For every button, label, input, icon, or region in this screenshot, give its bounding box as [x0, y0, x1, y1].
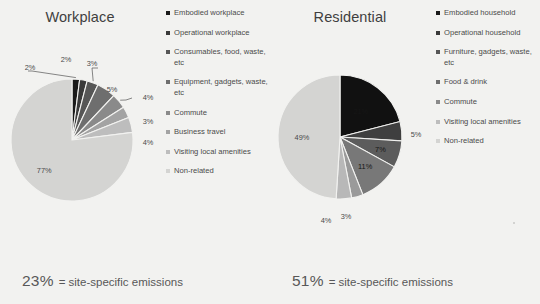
- legend-swatch-icon: [166, 130, 170, 134]
- legend-label: Operational household: [444, 28, 520, 39]
- pie-slice-label: 5%: [411, 130, 422, 139]
- chart-panel-workplace: Workplace 2%2%3%5%4%3%4%77% Embodied wor…: [0, 0, 270, 304]
- legend-swatch-icon: [166, 169, 170, 173]
- pie-slice-label: 77%: [37, 166, 52, 175]
- chart-panel-residential: Residential 21%5%7%11%3%4%49% Embodied h…: [270, 0, 540, 304]
- footnote-residential: 51% = site-specific emissions: [292, 272, 453, 290]
- label-leader-line: [28, 71, 76, 78]
- legend-swatch-icon: [436, 120, 440, 124]
- legend-label: Commute: [444, 97, 477, 108]
- label-leader-line: [92, 68, 98, 81]
- pie-svg: 21%5%7%11%3%4%49%: [276, 62, 436, 212]
- legend-label: Furniture, gadgets, waste, etc: [444, 47, 538, 68]
- legend-swatch-icon: [436, 11, 440, 15]
- legend-swatch-icon: [166, 50, 170, 54]
- legend-swatch-icon: [436, 80, 440, 84]
- legend-item: Furniture, gadgets, waste, etc: [436, 47, 540, 68]
- legend-swatch-icon: [166, 111, 170, 115]
- legend-label: Operational workplace: [174, 28, 250, 39]
- pie-slice-label: 2%: [61, 55, 72, 64]
- pie-slice-label: 3%: [143, 117, 154, 126]
- dust-speck: [513, 222, 515, 224]
- legend-label: Visiting local amenities: [444, 117, 521, 128]
- legend-item: Operational workplace: [166, 28, 270, 39]
- legend-residential: Embodied householdOperational householdF…: [436, 8, 540, 156]
- footnote-text-residential: = site-specific emissions: [329, 276, 453, 288]
- legend-label: Visiting local amenities: [174, 147, 251, 158]
- legend-item: Food & drink: [436, 77, 540, 88]
- legend-item: Commute: [166, 108, 270, 119]
- legend-swatch-icon: [166, 31, 170, 35]
- legend-label: Non-related: [174, 166, 214, 177]
- pie-slice-label: 49%: [295, 133, 310, 142]
- legend-item: Business travel: [166, 127, 270, 138]
- legend-label: Equipment, gadgets, waste, etc: [174, 77, 268, 98]
- legend-swatch-icon: [436, 139, 440, 143]
- pie-chart-workplace: 2%2%3%5%4%3%4%77%: [6, 62, 166, 212]
- chart-title-residential: Residential: [270, 9, 430, 25]
- legend-label: Embodied household: [444, 8, 515, 19]
- legend-workplace: Embodied workplaceOperational workplaceC…: [166, 8, 270, 186]
- pie-slice-label: 3%: [87, 59, 98, 68]
- label-leader-line: [120, 98, 132, 100]
- pie-slice-label: 3%: [341, 212, 352, 221]
- legend-swatch-icon: [436, 31, 440, 35]
- legend-item: Commute: [436, 97, 540, 108]
- legend-label: Business travel: [174, 127, 226, 138]
- chart-title-workplace: Workplace: [0, 9, 160, 25]
- legend-label: Embodied workplace: [174, 8, 245, 19]
- pie-slice-label: 2%: [25, 63, 36, 72]
- legend-item: Visiting local amenities: [166, 147, 270, 158]
- legend-swatch-icon: [166, 11, 170, 15]
- legend-item: Equipment, gadgets, waste, etc: [166, 77, 270, 98]
- legend-item: Embodied household: [436, 8, 540, 19]
- legend-item: Consumables, food, waste, etc: [166, 47, 270, 68]
- pie-slice-label: 11%: [358, 162, 373, 171]
- legend-label: Consumables, food, waste, etc: [174, 47, 268, 68]
- pie-slice-label: 5%: [107, 85, 118, 94]
- legend-label: Food & drink: [444, 77, 487, 88]
- legend-item: Non-related: [166, 166, 270, 177]
- legend-swatch-icon: [166, 80, 170, 84]
- legend-item: Visiting local amenities: [436, 117, 540, 128]
- legend-swatch-icon: [166, 150, 170, 154]
- legend-label: Commute: [174, 108, 207, 119]
- pie-slice-label: 4%: [143, 93, 154, 102]
- footnote-value-residential: 51%: [292, 272, 324, 290]
- pie-slice-label: 4%: [321, 216, 332, 225]
- pie-slice-label: 4%: [143, 138, 154, 147]
- pie-chart-residential: 21%5%7%11%3%4%49%: [276, 62, 436, 212]
- legend-swatch-icon: [436, 50, 440, 54]
- slide-canvas: Workplace 2%2%3%5%4%3%4%77% Embodied wor…: [0, 0, 540, 304]
- legend-item: Embodied workplace: [166, 8, 270, 19]
- pie-slice-label: 21%: [353, 107, 368, 116]
- legend-label: Non-related: [444, 136, 484, 147]
- legend-item: Operational household: [436, 28, 540, 39]
- legend-swatch-icon: [436, 100, 440, 104]
- footnote-workplace: 23% = site-specific emissions: [22, 272, 183, 290]
- footnote-text-workplace: = site-specific emissions: [59, 276, 183, 288]
- pie-svg: 2%2%3%5%4%3%4%77%: [6, 62, 166, 212]
- legend-item: Non-related: [436, 136, 540, 147]
- pie-slice-label: 7%: [375, 145, 386, 154]
- footnote-value-workplace: 23%: [22, 272, 54, 290]
